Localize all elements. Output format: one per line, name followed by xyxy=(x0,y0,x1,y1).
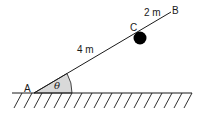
ground-hatching xyxy=(14,93,192,108)
ball xyxy=(134,32,147,45)
point-c-label: C xyxy=(130,22,137,33)
incline-diagram: A B C 4 m 2 m θ xyxy=(0,0,199,123)
segment-ac-label: 4 m xyxy=(77,44,94,55)
point-a-label: A xyxy=(24,83,31,94)
segment-cb-label: 2 m xyxy=(144,7,161,18)
angle-theta-label: θ xyxy=(54,80,60,91)
point-b-label: B xyxy=(172,5,179,16)
